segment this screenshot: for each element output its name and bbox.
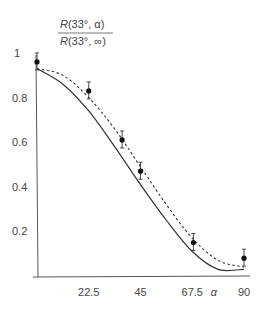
y-axis-label-denominator: R(33°, ∞)	[60, 35, 106, 47]
x-tick-label: 45	[134, 286, 146, 298]
chart: R(33°, α) R(33°, ∞) 0.20.40.60.81 22.545…	[0, 0, 266, 312]
data-point	[34, 59, 39, 64]
y-tick-label: 0.4	[12, 181, 27, 193]
y-tick-label: 0.6	[12, 136, 27, 148]
measured-points	[34, 53, 246, 266]
x-tick-label: 67.5	[182, 286, 203, 298]
y-tick-label: 1	[14, 47, 20, 59]
x-tick-label: 22.5	[78, 286, 99, 298]
y-axis-label-numerator: R(33°, α)	[60, 18, 104, 30]
x-tick-label: 90	[238, 286, 250, 298]
y-axis	[36, 55, 38, 277]
data-point	[86, 88, 91, 93]
y-tick-label: 0.8	[12, 92, 27, 104]
y-tick-label: 0.2	[12, 225, 27, 237]
data-point	[138, 169, 143, 174]
x-axis	[33, 276, 250, 277]
data-point	[191, 240, 196, 245]
data-point	[241, 256, 246, 261]
x-tick-labels: 22.54567.590	[78, 286, 250, 298]
x-axis-label: α	[211, 286, 218, 298]
y-tick-labels: 0.20.40.60.81	[12, 47, 27, 237]
data-point	[120, 137, 125, 142]
